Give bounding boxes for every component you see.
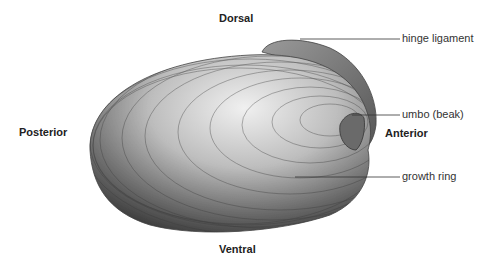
umbo-label: umbo (beak)	[402, 108, 464, 120]
ventral-label: Ventral	[219, 243, 256, 255]
shell-valve	[90, 55, 371, 232]
anterior-label: Anterior	[385, 127, 428, 139]
dorsal-label: Dorsal	[219, 12, 253, 24]
growth-ring-label: growth ring	[402, 170, 456, 182]
hinge-ligament-label: hinge ligament	[402, 32, 474, 44]
posterior-label: Posterior	[19, 126, 67, 138]
